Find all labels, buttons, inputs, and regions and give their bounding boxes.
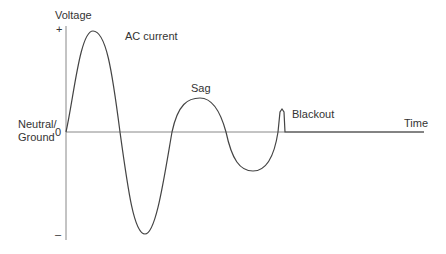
- ac-current-annotation: AC current: [125, 30, 178, 42]
- y-axis-label: Voltage: [55, 9, 92, 21]
- sag-annotation: Sag: [191, 82, 211, 94]
- power-waveform-diagram: Voltage + 0 – Neutral/ Ground Time AC cu…: [0, 0, 446, 254]
- y-minus-label: –: [55, 228, 62, 240]
- ground-label: Ground: [18, 131, 55, 143]
- blackout-annotation: Blackout: [292, 108, 334, 120]
- x-axis-label: Time: [404, 117, 428, 129]
- y-plus-label: +: [56, 23, 62, 35]
- neutral-label: Neutral/: [18, 118, 57, 130]
